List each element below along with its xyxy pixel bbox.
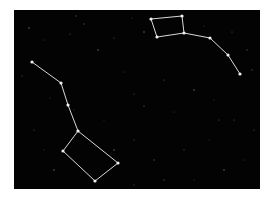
background-star [153, 159, 155, 161]
background-star [49, 97, 50, 98]
background-star [193, 179, 194, 180]
little-dipper-constellation [149, 14, 241, 75]
constellation-line [95, 163, 118, 181]
constellation-line [210, 38, 228, 55]
constellation-star [182, 31, 185, 34]
constellation-star [61, 149, 64, 152]
background-star [43, 39, 44, 40]
constellation-star [149, 17, 152, 20]
background-star [251, 69, 253, 71]
background-star [113, 37, 114, 38]
background-star [69, 33, 70, 34]
background-star [231, 31, 232, 32]
background-star [246, 49, 248, 51]
background-star [75, 15, 77, 17]
big-dipper-constellation [30, 60, 119, 182]
constellation-line [68, 105, 78, 131]
constellation-line [78, 131, 118, 163]
background-star [243, 159, 244, 160]
background-star [163, 179, 165, 181]
background-star [218, 119, 219, 120]
background-star [21, 75, 22, 76]
constellation-star [59, 81, 62, 84]
constellation-star [226, 53, 229, 56]
constellation-star [76, 129, 79, 132]
star-chart-panel [14, 10, 260, 189]
constellation-line [228, 55, 240, 74]
background-star [133, 93, 134, 94]
background-star [253, 129, 254, 130]
background-star [133, 184, 134, 185]
background-star [193, 89, 195, 91]
background-star [203, 25, 204, 26]
constellation-star [66, 103, 69, 106]
background-star [213, 99, 214, 100]
constellation-line [61, 83, 68, 105]
background-star [103, 119, 104, 120]
background-star [131, 17, 132, 18]
constellation-line [151, 16, 182, 19]
constellation-star [30, 60, 33, 63]
background-star [83, 23, 85, 25]
constellation-star [116, 161, 119, 164]
background-star [28, 27, 30, 29]
constellation-line [184, 33, 210, 38]
background-star [163, 79, 164, 80]
constellation-line [63, 131, 78, 151]
background-star [183, 149, 184, 150]
constellation-star [93, 179, 96, 182]
constellation-star [208, 36, 211, 39]
background-star [143, 31, 145, 33]
constellation-line [157, 33, 184, 37]
constellation-star [155, 35, 158, 38]
background-star [113, 149, 115, 151]
background-star [97, 49, 99, 51]
background-star [143, 105, 145, 107]
background-star [53, 169, 55, 171]
constellation-line [32, 62, 61, 83]
background-star [133, 139, 134, 140]
background-star [123, 71, 124, 72]
background-star [173, 111, 174, 112]
background-star [73, 109, 74, 110]
constellation-line [151, 19, 157, 37]
constellation-diagram [14, 10, 260, 189]
background-star [208, 139, 209, 140]
constellation-line [63, 151, 95, 181]
background-star [43, 149, 44, 150]
constellation-line [182, 16, 184, 33]
background-star [233, 119, 234, 120]
constellation-star [238, 72, 241, 75]
background-star [223, 169, 225, 171]
background-star [33, 129, 34, 130]
constellation-star [180, 14, 183, 17]
